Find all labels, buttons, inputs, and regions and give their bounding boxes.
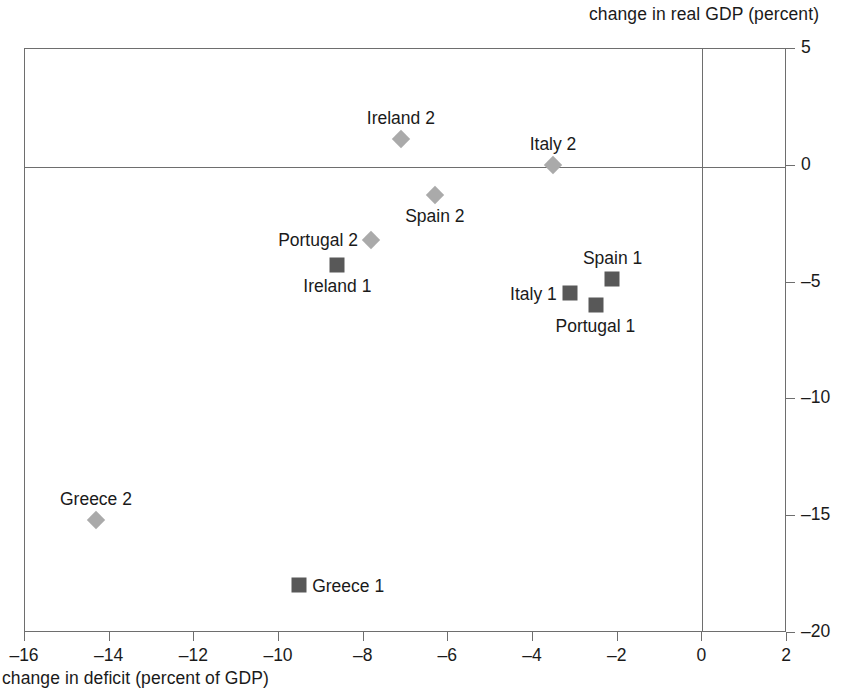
x-tick-mark bbox=[532, 632, 533, 641]
x-tick-label: 0 bbox=[696, 645, 706, 666]
data-point-portugal-1[interactable] bbox=[588, 297, 603, 312]
x-tick-label: –12 bbox=[179, 645, 208, 666]
data-point-ireland-1[interactable] bbox=[330, 258, 345, 273]
x-tick-mark bbox=[447, 632, 448, 641]
x-tick-mark bbox=[701, 632, 702, 641]
y-tick-mark bbox=[786, 632, 795, 633]
data-point-label: Spain 1 bbox=[583, 248, 642, 269]
x-tick-label: 2 bbox=[781, 645, 791, 666]
x-tick-label: –6 bbox=[438, 645, 457, 666]
y-tick-label: 5 bbox=[801, 37, 811, 58]
y-tick-mark bbox=[786, 398, 795, 399]
scatter-chart: change in real GDP (percent) 50–5–10–15–… bbox=[0, 0, 847, 700]
x-tick-mark bbox=[278, 632, 279, 641]
x-tick-mark bbox=[363, 632, 364, 641]
y-tick-mark bbox=[786, 282, 795, 283]
x-tick-label: –4 bbox=[522, 645, 541, 666]
data-point-label: Portugal 1 bbox=[556, 316, 636, 337]
data-point-label: Ireland 2 bbox=[367, 108, 435, 129]
data-point-label: Portugal 2 bbox=[278, 230, 358, 251]
y-axis-title: change in real GDP (percent) bbox=[589, 4, 819, 25]
y-tick-mark bbox=[786, 515, 795, 516]
data-point-label: Italy 2 bbox=[530, 134, 577, 155]
data-point-label: Italy 1 bbox=[510, 284, 557, 305]
x-tick-label: –2 bbox=[607, 645, 626, 666]
x-tick-label: –8 bbox=[353, 645, 372, 666]
zero-horizontal-line bbox=[24, 167, 786, 168]
y-tick-label: –15 bbox=[801, 504, 830, 525]
data-point-greece-1[interactable] bbox=[292, 578, 307, 593]
x-tick-label: –14 bbox=[94, 645, 123, 666]
x-tick-mark bbox=[24, 632, 25, 641]
y-tick-mark bbox=[786, 48, 795, 49]
data-point-label: Greece 2 bbox=[60, 489, 132, 510]
data-point-label: Greece 1 bbox=[312, 576, 384, 597]
data-point-label: Spain 2 bbox=[405, 206, 464, 227]
y-tick-label: –5 bbox=[801, 271, 820, 292]
data-point-label: Ireland 1 bbox=[303, 276, 371, 297]
x-tick-mark bbox=[193, 632, 194, 641]
x-tick-mark bbox=[109, 632, 110, 641]
y-tick-mark bbox=[786, 165, 795, 166]
y-tick-label: –20 bbox=[801, 621, 830, 642]
y-tick-label: 0 bbox=[801, 154, 811, 175]
x-tick-label: –10 bbox=[263, 645, 292, 666]
x-tick-label: –16 bbox=[9, 645, 38, 666]
y-tick-label: –10 bbox=[801, 387, 830, 408]
x-tick-mark bbox=[786, 632, 787, 641]
data-point-spain-1[interactable] bbox=[605, 272, 620, 287]
data-point-italy-1[interactable] bbox=[563, 286, 578, 301]
x-tick-mark bbox=[617, 632, 618, 641]
x-axis-title: change in deficit (percent of GDP) bbox=[2, 668, 269, 689]
zero-vertical-line bbox=[702, 48, 703, 632]
